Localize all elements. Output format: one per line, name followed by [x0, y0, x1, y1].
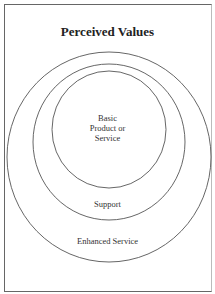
core-label: Basic Product or Service — [0, 113, 215, 143]
outer-circle-enhanced-service — [7, 52, 211, 262]
circles-svg — [0, 0, 215, 294]
core-label-line: Product or — [0, 123, 215, 133]
support-label: Support — [0, 199, 215, 209]
core-label-line: Basic — [0, 113, 215, 123]
core-label-line: Service — [0, 133, 215, 143]
enhanced-service-label: Enhanced Service — [0, 236, 215, 246]
